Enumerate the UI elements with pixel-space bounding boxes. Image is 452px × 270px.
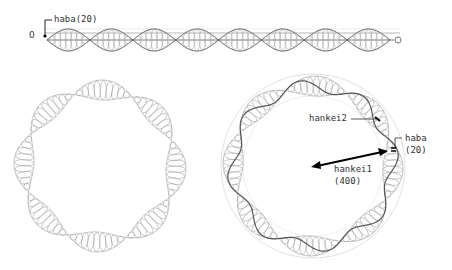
zero-label: 0 — [29, 30, 35, 41]
hankei1-arrowhead-left — [311, 161, 321, 169]
hankei1-value: (400) — [334, 176, 361, 187]
left-ring — [14, 80, 186, 252]
diagram-canvas — [0, 0, 452, 270]
haba-label-right: haba — [405, 133, 427, 144]
hankei1-label: hankei1 — [334, 164, 372, 175]
haba-label-top: haba(20) — [54, 14, 97, 25]
haba-bracket — [45, 20, 52, 36]
haba-value-right: (20) — [405, 145, 427, 156]
hankei2-label: hankei2 — [309, 113, 347, 124]
origin-dot — [43, 34, 46, 37]
strip-end-circle — [395, 37, 401, 43]
sine-strip — [45, 29, 401, 51]
